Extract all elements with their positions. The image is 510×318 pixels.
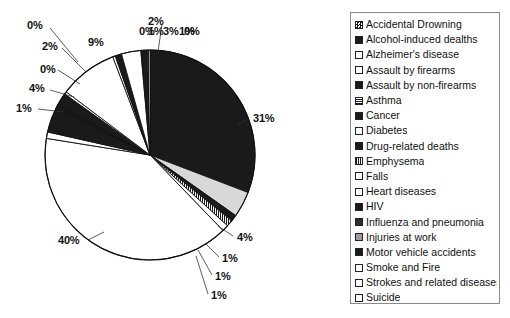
legend-swatch-icon — [355, 21, 363, 29]
chart-legend: Accidental DrowningAlcohol-induced dealt… — [350, 12, 500, 304]
legend-swatch-icon — [355, 279, 363, 287]
legend-item-label: Asthma — [366, 95, 402, 106]
pie-percent-label: 1% — [215, 271, 231, 282]
legend-item[interactable]: Diabetes — [355, 123, 497, 138]
legend-item-label: Motor vehicle accidents — [366, 247, 476, 258]
legend-item[interactable]: Suicide — [355, 290, 497, 305]
pie-percent-label: 1% — [211, 290, 227, 301]
pie-percent-label: 4% — [237, 232, 253, 243]
leader-line — [58, 70, 80, 84]
legend-swatch-icon — [355, 112, 363, 120]
leader-line — [62, 48, 86, 72]
legend-item-label: Smoke and Fire — [366, 262, 440, 273]
pie-percent-label: 1% — [16, 103, 32, 114]
legend-item[interactable]: HIV — [355, 199, 497, 214]
legend-item-label: Cancer — [366, 110, 400, 121]
legend-item[interactable]: Assault by non-firearms — [355, 78, 497, 93]
pie-chart-area: 0%2%0%4%1%9%2%0%1%3%1%0%31%4%1%1%1%40% — [0, 0, 340, 318]
leader-line — [198, 250, 212, 275]
leader-line — [196, 256, 208, 294]
legend-item[interactable]: Influenza and pneumonia — [355, 214, 497, 229]
leader-line — [205, 243, 219, 257]
legend-item[interactable]: Smoke and Fire — [355, 260, 497, 275]
legend-item-label: Alcohol-induced dealths — [366, 34, 478, 45]
legend-swatch-icon — [355, 248, 363, 256]
legend-item-label: Suicide — [366, 292, 400, 303]
legend-item[interactable]: Cancer — [355, 108, 497, 123]
legend-item-label: Assault by firearms — [366, 65, 455, 76]
legend-item[interactable]: Asthma — [355, 93, 497, 108]
legend-item-label: Assault by non-firearms — [366, 80, 476, 91]
legend-item-label: Accidental Drowning — [366, 19, 462, 30]
legend-swatch-icon — [355, 203, 363, 211]
legend-swatch-icon — [355, 233, 363, 241]
legend-swatch-icon — [355, 218, 363, 226]
legend-item[interactable]: Alzheimer's disease — [355, 47, 497, 62]
legend-swatch-icon — [355, 172, 363, 180]
legend-item[interactable]: Alcohol-induced dealths — [355, 32, 497, 47]
legend-swatch-icon — [355, 51, 363, 59]
legend-item[interactable]: Assault by firearms — [355, 63, 497, 78]
pie-percent-label: 3% — [163, 26, 179, 37]
legend-item[interactable]: Falls — [355, 169, 497, 184]
legend-item[interactable]: Drug-related deaths — [355, 139, 497, 154]
legend-swatch-icon — [355, 127, 363, 135]
legend-swatch-icon — [355, 97, 363, 105]
legend-item-label: Emphysema — [366, 156, 424, 167]
legend-item[interactable]: Accidental Drowning — [355, 17, 497, 32]
pie-percent-label: 0% — [27, 20, 43, 31]
legend-item-label: Heart diseases — [366, 186, 436, 197]
legend-item-label: Alzheimer's disease — [366, 49, 459, 60]
legend-item[interactable]: Heart diseases — [355, 184, 497, 199]
pie-percent-label: 0% — [184, 26, 200, 37]
legend-item-label: Influenza and pneumonia — [366, 217, 484, 228]
pie-percent-label: 1% — [148, 26, 164, 37]
legend-swatch-icon — [355, 188, 363, 196]
legend-item-label: HIV — [366, 201, 384, 212]
legend-swatch-icon — [355, 36, 363, 44]
legend-item-label: Falls — [366, 171, 388, 182]
pie-percent-label: 0% — [40, 64, 56, 75]
legend-swatch-icon — [355, 157, 363, 165]
legend-item-label: Drug-related deaths — [366, 141, 459, 152]
pie-percent-label: 4% — [29, 83, 45, 94]
legend-swatch-icon — [355, 142, 363, 150]
legend-item[interactable]: Injuries at work — [355, 230, 497, 245]
legend-item[interactable]: Emphysema — [355, 154, 497, 169]
pie-percent-label: 40% — [58, 235, 79, 246]
legend-item-label: Injuries at work — [366, 232, 437, 243]
legend-swatch-icon — [355, 66, 363, 74]
legend-item[interactable]: Strokes and related diseases — [355, 275, 497, 290]
pie-percent-label: 2% — [42, 41, 58, 52]
legend-item-label: Diabetes — [366, 125, 407, 136]
pie-percent-label: 31% — [253, 113, 274, 124]
legend-swatch-icon — [355, 81, 363, 89]
legend-item-label: Strokes and related diseases — [366, 277, 497, 288]
legend-swatch-icon — [355, 294, 363, 302]
pie-percent-label: 9% — [88, 37, 104, 48]
legend-swatch-icon — [355, 264, 363, 272]
legend-item[interactable]: Motor vehicle accidents — [355, 245, 497, 260]
pie-percent-label: 1% — [222, 253, 238, 264]
